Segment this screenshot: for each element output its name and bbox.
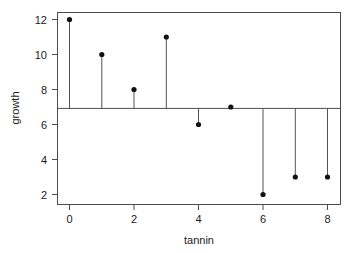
- data-point: [293, 174, 298, 179]
- data-point: [196, 122, 201, 127]
- data-point: [99, 52, 104, 57]
- x-tick-label: 4: [195, 213, 201, 225]
- y-axis-title: growth: [9, 91, 21, 124]
- data-point: [164, 34, 169, 39]
- y-tick-label: 4: [41, 154, 47, 166]
- y-tick-label: 2: [41, 189, 47, 201]
- x-tick-label: 0: [66, 213, 72, 225]
- figure-background: [0, 0, 358, 253]
- y-tick-label: 6: [41, 119, 47, 131]
- y-tick-label: 12: [35, 14, 47, 26]
- chart-figure: 2 4 6 8 10 12 0 2 4 6 8 tannin: [0, 0, 358, 253]
- x-axis-title: tannin: [184, 234, 214, 246]
- x-tick-label: 8: [324, 213, 330, 225]
- scatter-stem-plot: 2 4 6 8 10 12 0 2 4 6 8 tannin: [0, 0, 358, 253]
- x-tick-label: 2: [131, 213, 137, 225]
- y-tick-label: 8: [41, 84, 47, 96]
- data-point: [228, 104, 233, 109]
- x-tick-label: 6: [260, 213, 266, 225]
- data-point: [67, 17, 72, 22]
- y-tick-label: 10: [35, 49, 47, 61]
- data-point: [260, 192, 265, 197]
- data-point: [131, 87, 136, 92]
- data-point: [325, 174, 330, 179]
